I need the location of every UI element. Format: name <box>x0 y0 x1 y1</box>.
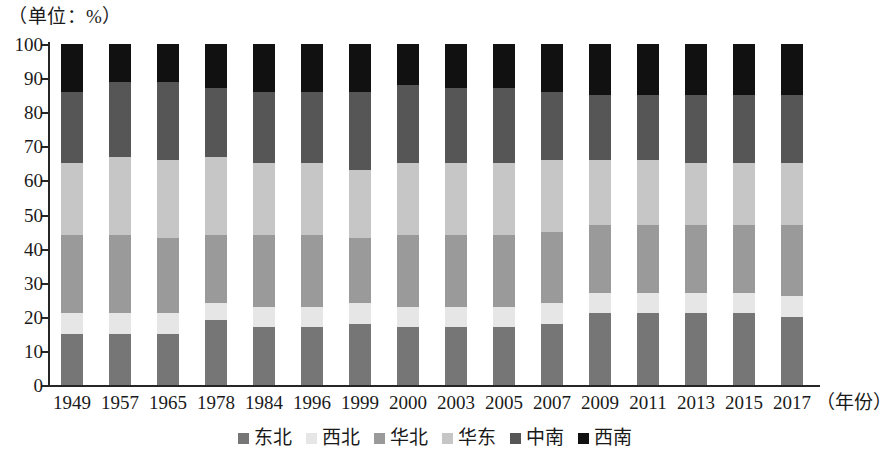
bar-segment-西南[interactable] <box>397 44 419 85</box>
bar-group[interactable] <box>253 44 275 385</box>
bar-segment-华北[interactable] <box>589 225 611 293</box>
stacked-bar[interactable] <box>157 44 179 385</box>
bar-segment-中南[interactable] <box>589 95 611 160</box>
bar-segment-东北[interactable] <box>493 327 515 385</box>
bar-segment-东北[interactable] <box>637 313 659 385</box>
stacked-bar[interactable] <box>253 44 275 385</box>
bar-segment-西北[interactable] <box>781 296 803 316</box>
bar-segment-华东[interactable] <box>205 157 227 235</box>
bar-segment-东北[interactable] <box>109 334 131 385</box>
bar-segment-西南[interactable] <box>589 44 611 95</box>
legend-item-华东[interactable]: 华东 <box>442 427 496 449</box>
bar-segment-东北[interactable] <box>397 327 419 385</box>
bar-segment-西南[interactable] <box>685 44 707 95</box>
bar-segment-华北[interactable] <box>61 235 83 313</box>
bar-group[interactable] <box>733 44 755 385</box>
stacked-bar[interactable] <box>493 44 515 385</box>
bar-segment-华东[interactable] <box>349 170 371 238</box>
stacked-bar[interactable] <box>61 44 83 385</box>
bar-segment-西南[interactable] <box>205 44 227 88</box>
bar-segment-西南[interactable] <box>157 44 179 82</box>
bar-segment-华北[interactable] <box>397 235 419 307</box>
bar-group[interactable] <box>349 44 371 385</box>
bar-segment-中南[interactable] <box>685 95 707 163</box>
bar-group[interactable] <box>205 44 227 385</box>
bar-segment-西北[interactable] <box>541 303 563 323</box>
bar-segment-中南[interactable] <box>733 95 755 163</box>
bar-segment-华北[interactable] <box>349 238 371 303</box>
bar-segment-华北[interactable] <box>733 225 755 293</box>
bar-segment-西南[interactable] <box>349 44 371 92</box>
bar-segment-西南[interactable] <box>109 44 131 82</box>
bar-segment-东北[interactable] <box>781 317 803 385</box>
bar-group[interactable] <box>445 44 467 385</box>
bar-segment-西北[interactable] <box>445 307 467 327</box>
bar-segment-东北[interactable] <box>541 324 563 385</box>
bar-segment-东北[interactable] <box>301 327 323 385</box>
bar-segment-西南[interactable] <box>445 44 467 88</box>
bar-segment-中南[interactable] <box>157 82 179 160</box>
bar-segment-西北[interactable] <box>349 303 371 323</box>
bar-group[interactable] <box>589 44 611 385</box>
bar-segment-西南[interactable] <box>541 44 563 92</box>
stacked-bar[interactable] <box>301 44 323 385</box>
bar-group[interactable] <box>637 44 659 385</box>
bar-segment-西北[interactable] <box>589 293 611 313</box>
bar-segment-中南[interactable] <box>397 85 419 163</box>
stacked-bar[interactable] <box>397 44 419 385</box>
bar-segment-东北[interactable] <box>157 334 179 385</box>
bar-segment-华东[interactable] <box>541 160 563 232</box>
bar-segment-华北[interactable] <box>637 225 659 293</box>
bar-segment-西北[interactable] <box>493 307 515 327</box>
bar-group[interactable] <box>397 44 419 385</box>
bar-segment-西南[interactable] <box>253 44 275 92</box>
bar-segment-华东[interactable] <box>109 157 131 235</box>
legend-item-华北[interactable]: 华北 <box>374 427 428 449</box>
bar-segment-华东[interactable] <box>397 163 419 235</box>
bar-segment-西北[interactable] <box>301 307 323 327</box>
bar-segment-东北[interactable] <box>685 313 707 385</box>
bar-group[interactable] <box>301 44 323 385</box>
bar-segment-华东[interactable] <box>637 160 659 225</box>
bar-segment-中南[interactable] <box>109 82 131 157</box>
bar-segment-西北[interactable] <box>397 307 419 327</box>
bar-segment-中南[interactable] <box>445 88 467 163</box>
bar-segment-华北[interactable] <box>685 225 707 293</box>
bar-group[interactable] <box>541 44 563 385</box>
bar-segment-华北[interactable] <box>205 235 227 303</box>
stacked-bar[interactable] <box>685 44 707 385</box>
stacked-bar[interactable] <box>733 44 755 385</box>
bar-segment-中南[interactable] <box>301 92 323 164</box>
bar-segment-西北[interactable] <box>109 313 131 333</box>
bar-segment-华北[interactable] <box>301 235 323 307</box>
bar-segment-华北[interactable] <box>541 232 563 304</box>
bar-segment-中南[interactable] <box>349 92 371 170</box>
bar-segment-华北[interactable] <box>445 235 467 307</box>
bar-group[interactable] <box>109 44 131 385</box>
bar-segment-华东[interactable] <box>253 163 275 235</box>
legend-item-中南[interactable]: 中南 <box>510 427 564 449</box>
bar-segment-华东[interactable] <box>301 163 323 235</box>
bar-segment-华北[interactable] <box>781 225 803 297</box>
bar-segment-东北[interactable] <box>205 320 227 385</box>
stacked-bar[interactable] <box>349 44 371 385</box>
legend-item-东北[interactable]: 东北 <box>238 427 292 449</box>
stacked-bar[interactable] <box>541 44 563 385</box>
bar-segment-西南[interactable] <box>733 44 755 95</box>
bar-segment-东北[interactable] <box>61 334 83 385</box>
stacked-bar[interactable] <box>781 44 803 385</box>
stacked-bar[interactable] <box>109 44 131 385</box>
stacked-bar[interactable] <box>205 44 227 385</box>
bar-segment-中南[interactable] <box>637 95 659 160</box>
bar-segment-华东[interactable] <box>781 163 803 224</box>
bar-segment-西北[interactable] <box>637 293 659 313</box>
bar-segment-东北[interactable] <box>349 324 371 385</box>
bar-group[interactable] <box>685 44 707 385</box>
bar-segment-西北[interactable] <box>61 313 83 333</box>
bar-segment-西南[interactable] <box>61 44 83 92</box>
bar-segment-西南[interactable] <box>493 44 515 88</box>
bar-segment-华东[interactable] <box>157 160 179 238</box>
bar-segment-华东[interactable] <box>445 163 467 235</box>
bar-group[interactable] <box>781 44 803 385</box>
bar-segment-中南[interactable] <box>61 92 83 164</box>
